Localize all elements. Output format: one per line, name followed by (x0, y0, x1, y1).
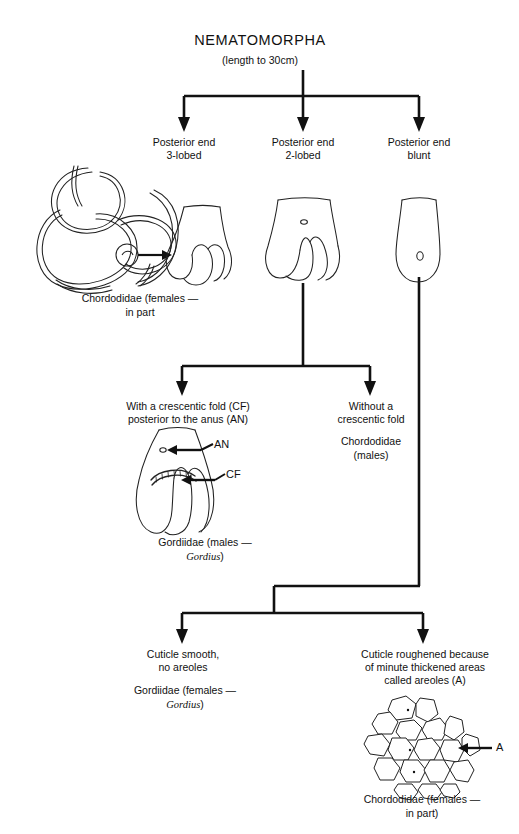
arrowhead-level3-right (417, 629, 429, 644)
level2-left-taxon-close: ) (220, 550, 224, 562)
posterior-end-2-lobed-diagram (262, 198, 348, 288)
areole-label-a: A (496, 741, 514, 755)
level3-right-taxon: Chordodidae (females — in part) (322, 793, 519, 820)
level3-left-taxon: Gordiidae (females — Gordius) (110, 684, 260, 711)
cf-label: CF (226, 468, 256, 482)
worm-caption: Chordodidae (females — in part (40, 292, 240, 319)
figure-canvas: NEMATOMORPHA (length to 30cm) (0, 0, 519, 834)
areoles-diagram (358, 694, 498, 804)
level3-left-label: Cuticle smooth, no areoles (122, 648, 244, 674)
level3-left-taxon-line1: Gordiidae (females — (134, 684, 236, 696)
arrowhead-level1-mid (297, 117, 309, 132)
an-annotation-arrow (167, 444, 213, 455)
an-label: AN (214, 438, 244, 452)
branch-label-2-lobed: Posterior end 2-lobed (243, 136, 363, 162)
arrowhead-level1-right (413, 117, 425, 132)
level2-left-label: With a crescentic fold (CF) posterior to… (102, 400, 274, 426)
arrowhead-level3-left (176, 629, 188, 644)
branch-label-blunt: Posterior end blunt (359, 136, 479, 162)
level3-left-taxon-close: ) (200, 698, 204, 710)
posterior-end-3-lobed-diagram (158, 205, 248, 295)
level3-left-taxon-genus: Gordius (166, 699, 200, 710)
arrowhead-level2-right (364, 381, 376, 396)
level2-left-taxon: Gordiidae (males — Gordius) (110, 536, 300, 563)
level3-right-label: Cuticle roughened because of minute thic… (330, 648, 519, 687)
level2-left-taxon-line1: Gordiidae (males — (158, 536, 251, 548)
level2-left-taxon-genus: Gordius (186, 551, 220, 562)
posterior-end-blunt-diagram (392, 198, 462, 288)
level2-right-taxon: Chordodidae (males) (310, 435, 432, 462)
level2-right-label: Without a crescentic fold (310, 400, 432, 426)
arrowhead-level2-left (176, 381, 188, 396)
arrowhead-level1-left (178, 117, 190, 132)
branch-label-3-lobed: Posterior end 3-lobed (124, 136, 244, 162)
gordiidae-male-diagram (125, 428, 295, 543)
